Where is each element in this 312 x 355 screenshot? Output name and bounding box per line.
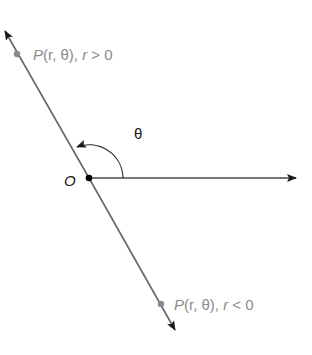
angle-arc <box>77 145 123 178</box>
origin-label: O <box>64 172 76 189</box>
point-negative-r <box>158 301 164 307</box>
point-negative-label: P(r, θ), r < 0 <box>174 296 254 313</box>
point-positive-label: P(r, θ), r > 0 <box>33 46 113 63</box>
terminal-line-lower <box>89 178 175 330</box>
polar-diagram: O θ P(r, θ), r > 0 P(r, θ), r < 0 <box>0 0 312 355</box>
angle-label: θ <box>134 125 142 142</box>
origin-dot <box>86 175 93 182</box>
point-positive-r <box>14 51 20 57</box>
